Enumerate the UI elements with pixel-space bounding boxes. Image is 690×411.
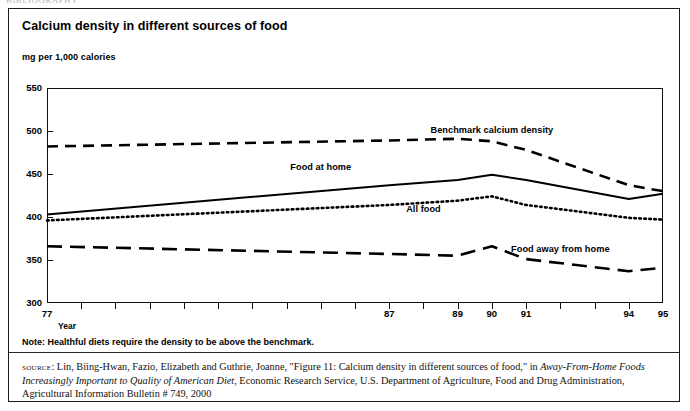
y-axis-tick-label: 450: [8, 168, 42, 179]
series-label: Benchmark calcium density: [430, 125, 553, 135]
x-axis-tick: [560, 303, 561, 309]
x-axis-tick-label: 90: [487, 308, 498, 319]
y-axis-tick-label: 300: [8, 297, 42, 308]
figure-note: Note: Healthful diets require the densit…: [22, 337, 314, 347]
x-axis-tick: [81, 303, 82, 309]
x-axis-tick: [252, 303, 253, 309]
y-axis-tick-label: 500: [8, 125, 42, 136]
x-axis-tick-label: 95: [658, 308, 669, 319]
plot-area: [47, 88, 663, 303]
page-title: Calcium density in different sources of …: [22, 19, 288, 33]
x-axis-tick-label: 94: [623, 308, 634, 319]
x-axis-tick: [355, 303, 356, 309]
source-prefix: source: [22, 361, 51, 372]
figure-page: BIBLIOGRAPHY Calcium density in differen…: [0, 0, 690, 411]
x-axis-tick-label: 89: [452, 308, 463, 319]
divider: [9, 352, 679, 353]
series-lines: [47, 88, 663, 303]
x-axis-tick: [150, 303, 151, 309]
x-axis-tick-label: 77: [42, 308, 53, 319]
x-axis-tick: [423, 303, 424, 309]
series-line: [47, 196, 663, 220]
series-label: All food: [406, 204, 441, 214]
y-axis-tick-label: 400: [8, 211, 42, 222]
x-axis-tick: [184, 303, 185, 309]
figure-source: source: Lin, Biing-Hwan, Fazio, Elizabet…: [22, 360, 662, 401]
page-header-cutoff: BIBLIOGRAPHY: [0, 0, 690, 6]
x-axis-tick: [287, 303, 288, 309]
page-header-cutoff-text: BIBLIOGRAPHY: [6, 0, 78, 5]
x-axis-caption: Year: [58, 321, 76, 331]
source-text-part-1: : Lin, Biing-Hwan, Fazio, Elizabeth and …: [51, 361, 540, 372]
series-label: Food at home: [290, 162, 351, 172]
series-line: [47, 175, 663, 215]
x-axis-tick-label: 87: [384, 308, 395, 319]
x-axis-tick-label: 91: [521, 308, 532, 319]
x-axis-tick: [218, 303, 219, 309]
x-axis-tick: [321, 303, 322, 309]
x-axis-tick: [115, 303, 116, 309]
series-label: Food away from home: [511, 244, 609, 254]
y-axis-tick-label: 550: [8, 82, 42, 93]
x-axis-tick: [595, 303, 596, 309]
y-axis-tick-label: 350: [8, 254, 42, 265]
y-axis-unit-label: mg per 1,000 calories: [22, 52, 116, 62]
series-line: [47, 139, 663, 191]
